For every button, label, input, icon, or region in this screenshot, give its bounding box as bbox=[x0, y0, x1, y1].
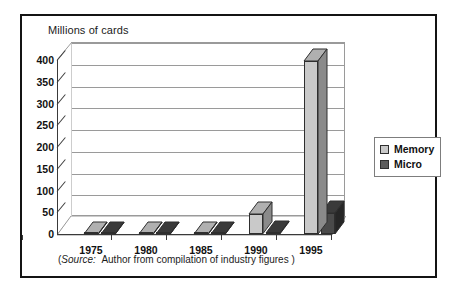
bar-side-face bbox=[263, 202, 272, 234]
figure-frame: Millions of cards bbox=[20, 14, 437, 278]
y-tick-label: 300 bbox=[36, 98, 54, 110]
bar-side-face bbox=[153, 222, 162, 235]
bar-side-face bbox=[115, 222, 124, 235]
chart-plot-area: 400 350 300 250 200 150 100 50 0 1975 19… bbox=[22, 16, 439, 280]
y-tick-label: 50 bbox=[42, 206, 54, 218]
bar-front-face bbox=[249, 214, 263, 234]
bar-side-face bbox=[335, 201, 344, 234]
source-label: Source: bbox=[61, 254, 95, 265]
bar-memory-1995 bbox=[304, 61, 318, 234]
bar-memory-1980 bbox=[139, 234, 153, 235]
bar-side-face bbox=[170, 222, 179, 235]
legend-label-memory: Memory bbox=[394, 144, 434, 155]
y-tick-label: 100 bbox=[36, 185, 54, 197]
legend-item-micro[interactable]: Micro bbox=[380, 157, 434, 172]
bar-side-face bbox=[280, 221, 289, 234]
bar-memory-1975 bbox=[84, 234, 98, 235]
x-tickmark-1975 bbox=[111, 235, 112, 240]
x-tickmark-1990 bbox=[276, 235, 277, 240]
bar-memory-1985 bbox=[194, 234, 208, 235]
bar-front-face bbox=[84, 232, 98, 234]
bar-front-face bbox=[194, 232, 208, 234]
gridline-400 bbox=[72, 43, 344, 44]
bar-side-face bbox=[225, 222, 234, 235]
x-tickmark-1985 bbox=[221, 235, 222, 240]
legend-label-micro: Micro bbox=[394, 159, 422, 170]
y-tick-label: 350 bbox=[36, 76, 54, 88]
x-tick-label: 1995 bbox=[299, 244, 322, 256]
bar-front-face bbox=[139, 232, 153, 234]
x-tickmark-1995 bbox=[331, 235, 332, 240]
chart-legend: Memory Micro bbox=[374, 137, 441, 177]
bar-side-face bbox=[208, 222, 217, 235]
y-tick-label: 400 bbox=[36, 54, 54, 66]
y-tick-label: 200 bbox=[36, 141, 54, 153]
x-tickmark-1980 bbox=[166, 235, 167, 240]
y-tick-label: 150 bbox=[36, 163, 54, 175]
y-tick-label: 0 bbox=[48, 228, 54, 240]
source-text: Author from compilation of industry figu… bbox=[101, 254, 294, 265]
legend-item-memory[interactable]: Memory bbox=[380, 142, 434, 157]
y-axis-ticks: 400 350 300 250 200 150 100 50 0 bbox=[22, 16, 54, 280]
bar-side-face bbox=[98, 222, 107, 235]
legend-swatch-memory bbox=[380, 145, 389, 154]
y-tick-label: 250 bbox=[36, 119, 54, 131]
bar-side-face bbox=[318, 49, 327, 234]
bar-memory-1990 bbox=[249, 214, 263, 234]
bar-front-face bbox=[304, 61, 318, 234]
source-note: (Source: Author from compilation of indu… bbox=[58, 254, 295, 265]
legend-swatch-micro bbox=[380, 160, 389, 169]
